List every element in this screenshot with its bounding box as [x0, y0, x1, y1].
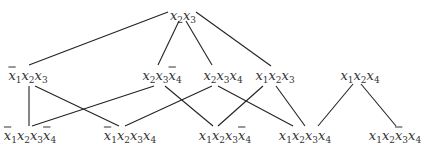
variable: x [43, 128, 50, 143]
subscript: 3 [42, 75, 48, 85]
variable: x [395, 128, 402, 143]
variable: x [367, 68, 374, 83]
term: x3 [35, 68, 48, 83]
term: x4 [408, 128, 421, 143]
term: x3 [305, 128, 318, 143]
term: x3 [395, 128, 408, 143]
variable: x [169, 68, 176, 83]
node-n_b4: x1x2x3x4 [279, 129, 331, 142]
term: x1 [369, 128, 382, 143]
term: x4 [238, 128, 251, 143]
term: x3 [225, 128, 238, 143]
variable: x [130, 128, 137, 143]
node-n_m2: x2x3x4 [142, 69, 181, 82]
subscript: 4 [50, 135, 56, 145]
term: x1 [340, 68, 353, 83]
node-n_m1: x1x2x3 [8, 69, 47, 82]
lattice-diagram: x2x3x1x2x3x2x3x4x2x3x4x1x2x3x1x2x4x1x2x3… [0, 0, 424, 151]
term: x2 [170, 8, 183, 23]
edge-n_top-n_m1 [29, 12, 168, 65]
term: x2 [21, 68, 34, 83]
subscript: 4 [325, 135, 331, 145]
term: x4 [230, 68, 243, 83]
term: x1 [8, 68, 21, 83]
subscript: 3 [190, 15, 196, 25]
node-n_top: x2x3 [170, 9, 196, 22]
term: x3 [216, 68, 229, 83]
subscript: 4 [237, 75, 243, 85]
node-n_b5: x1x2x3x4 [369, 129, 421, 142]
term: x1 [199, 128, 212, 143]
edge-n_m1-n_b2 [35, 86, 119, 126]
variable: x [238, 128, 245, 143]
term: x4 [143, 128, 156, 143]
edge-n_m4-n_b4 [276, 86, 305, 126]
term: x1 [255, 68, 268, 83]
term: x2 [17, 128, 30, 143]
term: x2 [117, 128, 130, 143]
term: x3 [282, 68, 295, 83]
term: x4 [318, 128, 331, 143]
node-n_m3: x2x3x4 [203, 69, 242, 82]
term: x4 [43, 128, 56, 143]
term: x2 [353, 68, 366, 83]
variable: x [30, 128, 37, 143]
term: x2 [203, 68, 216, 83]
term: x1 [4, 128, 17, 143]
term: x3 [130, 128, 143, 143]
term: x4 [169, 68, 182, 83]
subscript: 4 [245, 135, 251, 145]
term: x1 [104, 128, 117, 143]
subscript: 3 [289, 75, 295, 85]
variable: x [143, 128, 150, 143]
node-n_m4: x1x2x3 [255, 69, 294, 82]
subscript: 4 [374, 75, 380, 85]
edge-n_m2-n_b1 [32, 86, 154, 126]
term: x3 [155, 68, 168, 83]
subscript: 4 [150, 135, 156, 145]
node-n_b1: x1x2x3x4 [4, 129, 56, 142]
term: x2 [142, 68, 155, 83]
edge-n_m3-n_b2 [125, 86, 212, 126]
term: x1 [279, 128, 292, 143]
edge-n_m5-n_b4 [318, 84, 353, 126]
edge-n_top-n_m3 [186, 21, 212, 65]
node-n_b3: x1x2x3x4 [199, 129, 251, 142]
term: x3 [30, 128, 43, 143]
edge-n_m2-n_b3 [165, 86, 213, 126]
variable: x [318, 128, 325, 143]
subscript: 4 [415, 135, 421, 145]
variable: x [225, 128, 232, 143]
term: x2 [382, 128, 395, 143]
term: x3 [183, 8, 196, 23]
variable: x [35, 68, 42, 83]
variable: x [230, 68, 237, 83]
edge-n_m5-n_b5 [361, 84, 396, 126]
term: x4 [367, 68, 380, 83]
variable: x [282, 68, 289, 83]
term: x2 [212, 128, 225, 143]
node-n_b2: x1x2x3x4 [104, 129, 156, 142]
term: x2 [292, 128, 305, 143]
node-n_m5: x1x2x4 [340, 69, 379, 82]
term: x2 [268, 68, 281, 83]
variable: x [408, 128, 415, 143]
subscript: 4 [176, 75, 182, 85]
variable: x [305, 128, 312, 143]
edge-n_top-n_m2 [158, 21, 179, 65]
